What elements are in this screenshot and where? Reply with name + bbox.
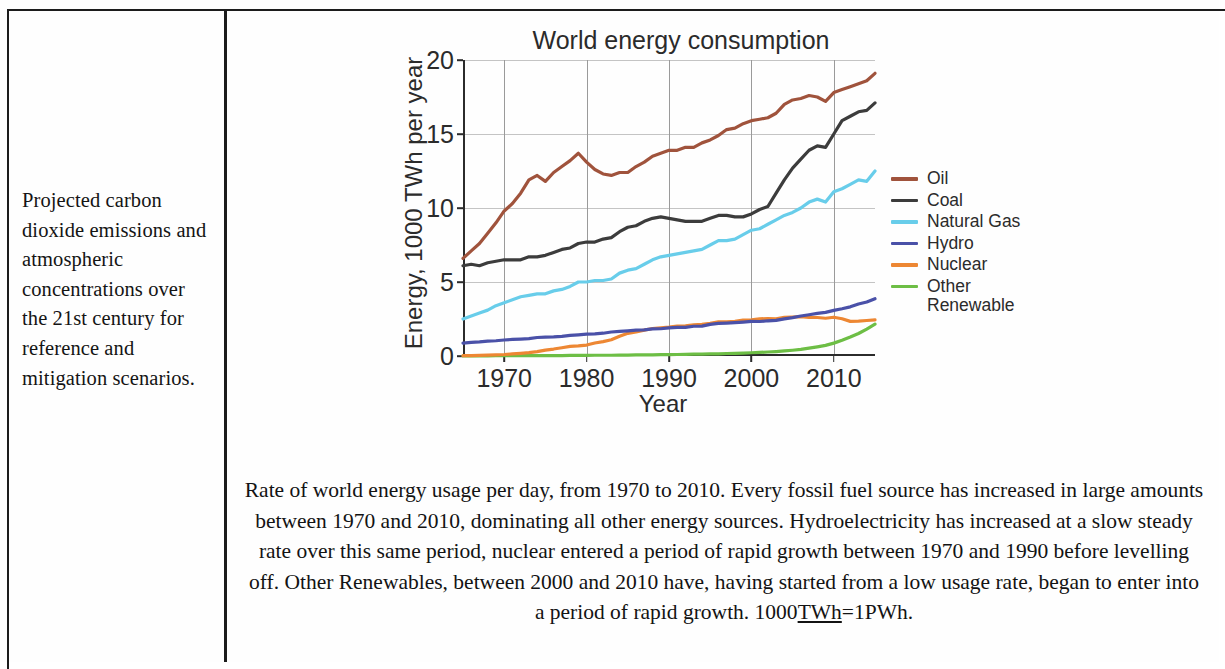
energy-consumption-chart: World energy consumption Energy, 1000 TW… (401, 14, 1091, 454)
legend-label: Other Renewable (927, 277, 1015, 316)
right-table-cell: World energy consumption Energy, 1000 TW… (231, 9, 1219, 662)
x-axis-tick-label: 2000 (724, 364, 780, 393)
series-line (463, 171, 875, 319)
legend-label: Oil (927, 169, 948, 189)
left-table-cell: Projected carbon dioxide emissions and a… (22, 186, 212, 393)
x-axis-tick-label: 1980 (559, 364, 615, 393)
y-axis-tick-label: 15 (426, 120, 454, 149)
legend-label: Nuclear (927, 255, 987, 275)
legend-color-swatch (891, 263, 918, 267)
series-line (463, 317, 875, 356)
x-axis-tick-mark (833, 356, 835, 362)
series-line (463, 299, 875, 343)
legend-item: Natural Gas (891, 212, 1020, 232)
series-line (463, 73, 875, 258)
y-axis-label: Energy, 1000 TWh per year (400, 8, 428, 398)
legend-label: Natural Gas (927, 212, 1020, 232)
caption-underlined-term: TWh (798, 600, 842, 624)
left-cell-text: Projected carbon dioxide emissions and a… (22, 186, 212, 393)
legend-color-swatch (891, 177, 918, 181)
figure-caption: Rate of world energy usage per day, from… (243, 475, 1205, 628)
x-axis-tick-mark (751, 356, 753, 362)
y-axis-tick-label: 10 (426, 194, 454, 223)
table-column-divider (224, 9, 227, 662)
y-axis-tick-label: 5 (440, 268, 454, 297)
chart-legend: OilCoalNatural GasHydroNuclearOther Rene… (891, 169, 1020, 317)
x-axis-tick-label: 1970 (476, 364, 532, 393)
x-axis-tick-mark (668, 356, 670, 362)
legend-item: Hydro (891, 234, 1020, 254)
plot-area: 0510152019701980199020002010 (463, 60, 875, 356)
legend-item: Coal (891, 191, 1020, 211)
chart-title: World energy consumption (401, 26, 961, 55)
x-axis-tick-label: 1990 (641, 364, 697, 393)
series-lines (463, 60, 875, 356)
legend-color-swatch (891, 199, 918, 203)
x-axis-tick-label: 2010 (806, 364, 862, 393)
y-axis-tick-label: 20 (426, 46, 454, 75)
legend-item: Other Renewable (891, 277, 1020, 316)
caption-text-part1: Rate of world energy usage per day, from… (245, 478, 1203, 624)
x-axis-label: Year (463, 390, 863, 418)
caption-text-part2: =1PWh. (842, 600, 913, 624)
legend-color-swatch (891, 242, 918, 246)
legend-color-swatch (891, 220, 918, 224)
legend-item: Nuclear (891, 255, 1020, 275)
legend-item: Oil (891, 169, 1020, 189)
legend-label: Hydro (927, 234, 974, 254)
y-axis-tick-label: 0 (440, 342, 454, 371)
legend-label: Coal (927, 191, 963, 211)
legend-color-swatch (891, 285, 918, 289)
